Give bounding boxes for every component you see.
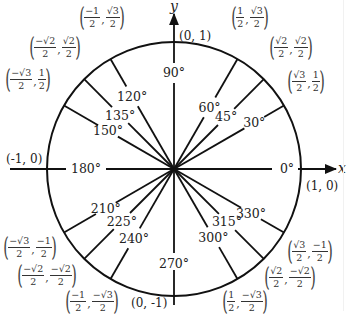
- angle-label-135: 135°: [105, 108, 135, 123]
- open-paren: (: [264, 264, 270, 290]
- x-fraction: −12: [84, 6, 100, 28]
- angle-label-90: 90°: [163, 65, 185, 80]
- x-fraction: −12: [70, 290, 86, 312]
- coordinate-label-45: (√22,√22): [270, 34, 312, 60]
- close-paren: ): [75, 34, 81, 60]
- coordinate-label-225: (−√22,−√22): [18, 262, 76, 288]
- angle-label-120: 120°: [117, 89, 147, 104]
- coordinate-label-300: (12,−√32): [223, 288, 267, 314]
- coordinate-label-120: (−12,√32): [80, 4, 124, 30]
- x-fraction: −√22: [34, 36, 56, 58]
- x-fraction-numerator: 1: [227, 290, 235, 302]
- spoke-150: [64, 106, 98, 126]
- x-fraction-numerator: √3: [292, 240, 306, 252]
- comma: ,: [87, 298, 91, 314]
- y-fraction-denominator: 2: [249, 302, 255, 313]
- y-fraction-numerator: −√3: [241, 290, 263, 302]
- comma: ,: [245, 14, 249, 30]
- y-fraction: −√22: [50, 264, 72, 286]
- x-fraction-denominator: 2: [237, 18, 243, 29]
- comma: ,: [45, 272, 49, 288]
- spoke-45: [234, 79, 264, 109]
- y-axis-label: y: [169, 0, 179, 14]
- open-paren: (: [222, 288, 228, 314]
- close-paren: ): [327, 238, 333, 264]
- angle-label-180: 180°: [71, 161, 101, 176]
- y-fraction: √32: [106, 6, 120, 28]
- point-0-neg1: (0, -1): [131, 296, 167, 310]
- y-fraction-denominator: 2: [317, 252, 323, 263]
- comma: ,: [57, 44, 61, 60]
- spoke-30: [264, 106, 284, 117]
- comma: ,: [284, 274, 288, 290]
- angle-label-30: 30°: [243, 115, 265, 130]
- angle-label-225: 225°: [107, 214, 137, 229]
- close-paren: ): [51, 234, 57, 260]
- y-fraction-numerator: √2: [294, 36, 308, 48]
- open-paren: (: [3, 234, 9, 260]
- comma: ,: [33, 76, 37, 92]
- y-fraction: −12: [36, 236, 52, 258]
- y-fraction-numerator: −1: [36, 236, 52, 248]
- x-fraction-numerator: √2: [269, 266, 283, 278]
- angle-label-0: 0°: [280, 161, 294, 176]
- close-paren: ): [119, 4, 125, 30]
- open-paren: (: [29, 34, 35, 60]
- y-fraction-denominator: 2: [58, 276, 64, 287]
- comma: ,: [236, 298, 240, 314]
- spoke-315: [235, 230, 264, 259]
- x-fraction-numerator: −√2: [22, 264, 44, 276]
- x-fraction-denominator: 2: [18, 80, 24, 91]
- x-fraction: √32: [292, 240, 306, 262]
- x-fraction-denominator: 2: [273, 278, 279, 289]
- x-fraction-denominator: 2: [278, 48, 284, 59]
- x-fraction: −√32: [10, 68, 32, 90]
- y-fraction: −√22: [289, 266, 311, 288]
- coordinate-label-330: (√32,−12): [288, 238, 332, 264]
- angle-label-270: 270°: [159, 256, 189, 271]
- spoke-300: [219, 247, 237, 279]
- comma: ,: [307, 78, 311, 94]
- x-fraction-denominator: 2: [296, 252, 302, 263]
- x-fraction-numerator: −1: [84, 6, 100, 18]
- spoke-120: [111, 59, 127, 86]
- x-fraction: √22: [274, 36, 288, 58]
- x-fraction-denominator: 2: [296, 82, 302, 93]
- y-fraction-numerator: −√2: [289, 266, 311, 278]
- x-fraction-denominator: 2: [16, 248, 22, 259]
- y-fraction-numerator: √2: [62, 36, 76, 48]
- coordinate-label-240: (−12,−√32): [66, 288, 118, 314]
- spoke-240: [111, 248, 129, 279]
- open-paren: (: [287, 68, 293, 94]
- spoke-135: [84, 79, 112, 107]
- x-fraction: −√22: [22, 264, 44, 286]
- close-paren: ): [319, 68, 325, 94]
- open-paren: (: [269, 34, 275, 60]
- y-fraction: −√32: [241, 290, 263, 312]
- spoke-210: [64, 214, 96, 232]
- close-paren: ): [263, 4, 269, 30]
- x-fraction-denominator: 2: [89, 18, 95, 29]
- open-paren: (: [287, 238, 293, 264]
- x-fraction-denominator: 2: [228, 302, 234, 313]
- coordinate-label-210: (−√32,−12): [4, 234, 56, 260]
- x-fraction: 12: [236, 6, 244, 28]
- open-paren: (: [17, 262, 23, 288]
- comma: ,: [307, 248, 311, 264]
- y-fraction: −12: [312, 240, 328, 262]
- comma: ,: [289, 44, 293, 60]
- comma: ,: [101, 14, 105, 30]
- spoke-60: [215, 59, 237, 97]
- x-fraction: 12: [227, 290, 235, 312]
- y-fraction-denominator: 2: [254, 18, 260, 29]
- angle-label-60: 60°: [198, 100, 220, 115]
- angle-label-330: 330°: [236, 206, 266, 221]
- y-fraction: √22: [294, 36, 308, 58]
- x-fraction-denominator: 2: [30, 276, 36, 287]
- angle-label-150: 150°: [93, 123, 123, 138]
- point-1-0: (1, 0): [306, 179, 338, 193]
- angle-label-300: 300°: [198, 230, 228, 245]
- y-fraction-denominator: 2: [298, 48, 304, 59]
- x-fraction: −√32: [8, 236, 30, 258]
- x-fraction-numerator: −1: [70, 290, 86, 302]
